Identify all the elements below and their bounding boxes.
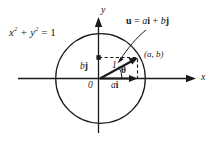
diagram-canvas bbox=[0, 0, 214, 147]
y-axis-label: y bbox=[101, 5, 105, 15]
circle-eq-equals-one: = 1 bbox=[39, 26, 56, 38]
unit-circle-figure: x2 + y2 = 1 y x u = ai + bj (a, b) 1 θ b… bbox=[0, 0, 214, 147]
circle-eq-plus-y: + y bbox=[17, 26, 35, 38]
ai-component-label: ai bbox=[111, 81, 118, 91]
bj-component-label: bj bbox=[80, 62, 88, 72]
theta-angle-label: θ bbox=[121, 66, 126, 76]
origin-label: 0 bbox=[88, 81, 93, 91]
vector-plus-sign: + bbox=[150, 15, 161, 26]
point-ab-label: (a, b) bbox=[144, 50, 164, 59]
radius-length-label: 1 bbox=[112, 61, 117, 71]
vector-j-unit: j bbox=[166, 15, 169, 26]
circle-equation-label: x2 + y2 = 1 bbox=[9, 26, 56, 38]
vector-equals-sign: = bbox=[132, 15, 143, 26]
vector-equation-label: u = ai + bj bbox=[126, 16, 169, 26]
ai-i-unit: i bbox=[116, 80, 119, 90]
bj-j-unit: j bbox=[85, 61, 88, 71]
b-tick-mark bbox=[96, 55, 100, 60]
x-axis-label: x bbox=[201, 72, 205, 82]
